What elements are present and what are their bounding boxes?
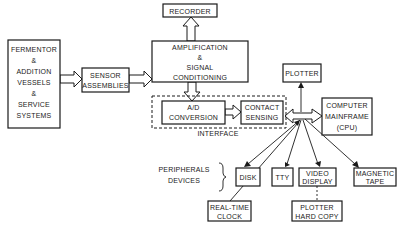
svg-text:RECORDER: RECORDER [169,8,211,15]
arrow-amplification-to-ad [184,82,200,101]
svg-text:PLOTTER: PLOTTER [300,204,334,211]
svg-text:HARD COPY: HARD COPY [295,213,339,220]
svg-text:ADDITION: ADDITION [16,68,51,75]
interface-label: INTERFACE [197,130,238,137]
svg-text:DISK: DISK [239,174,256,181]
svg-text:PLOTTER: PLOTTER [285,70,319,77]
fermentor-box: FERMENTOR & ADDITION VESSELS & SERVICE S… [8,40,60,128]
contact-sensing-box: CONTACT SENSING [241,101,283,124]
arrow-ad-to-contact [225,105,241,119]
svg-text:CONTACT: CONTACT [245,104,280,111]
brace-icon [219,163,226,191]
svg-text:SYSTEMS: SYSTEMS [17,112,52,119]
svg-text:MAGNETIC: MAGNETIC [356,170,395,177]
svg-text:&: & [32,90,37,97]
svg-text:SIGNAL: SIGNAL [187,64,214,71]
svg-text:TTY: TTY [276,174,290,181]
svg-text:CONDITIONING: CONDITIONING [173,74,227,81]
recorder-box: RECORDER [163,4,217,17]
svg-text:COMPUTER: COMPUTER [326,102,368,109]
svg-text:SERVICE: SERVICE [18,101,50,108]
svg-text:A/D: A/D [187,104,199,111]
arrow-fermentor-to-sensor [60,71,82,87]
svg-text:MAINFRAME: MAINFRAME [325,113,369,120]
svg-text:CLOCK: CLOCK [217,213,242,220]
svg-text:SENSOR: SENSOR [90,72,121,79]
real-time-clock-box: REAL-TIME CLOCK [208,201,251,221]
svg-text:SENSING: SENSING [246,114,279,121]
svg-text:DISPLAY: DISPLAY [302,178,333,185]
svg-text:DEVICES: DEVICES [168,177,200,184]
ad-conversion-box: A/D CONVERSION [162,101,225,124]
arrow-amplification-to-recorder [183,17,199,41]
plotter-hard-copy-box: PLOTTER HARD COPY [292,201,342,221]
svg-text:ASSEMBLIES: ASSEMBLIES [82,82,128,89]
svg-text:VESSELS: VESSELS [17,79,50,86]
magnetic-tape-box: MAGNETIC TAPE [354,168,396,186]
svg-text:CONVERSION: CONVERSION [169,114,218,121]
svg-text:FERMENTOR: FERMENTOR [11,46,57,53]
arrow-sensor-to-amplification [129,71,152,87]
svg-text:&: & [32,57,37,64]
peripherals-annotation: PERIPHERALS DEVICES [158,163,226,191]
svg-text:REAL-TIME: REAL-TIME [210,204,249,211]
svg-text:PERIPHERALS: PERIPHERALS [158,166,209,173]
disk-box: DISK [236,168,260,186]
video-display-box: VIDEO DISPLAY [299,168,336,186]
svg-text:AMPLIFICATION: AMPLIFICATION [172,44,228,51]
svg-text:(CPU): (CPU) [337,124,357,132]
svg-text:VIDEO: VIDEO [306,170,329,177]
fermentation-control-block-diagram: INTERFACE FERMENTOR & ADDITION VESSELS &… [0,0,402,229]
amplification-box: AMPLIFICATION & SIGNAL CONDITIONING [152,41,248,82]
svg-text:&: & [198,54,203,61]
svg-text:TAPE: TAPE [366,178,385,185]
sensor-assemblies-box: SENSOR ASSEMBLIES [82,68,129,92]
tty-box: TTY [272,168,293,186]
computer-mainframe-box: COMPUTER MAINFRAME (CPU) [322,98,372,135]
plotter-box: PLOTTER [283,64,321,82]
